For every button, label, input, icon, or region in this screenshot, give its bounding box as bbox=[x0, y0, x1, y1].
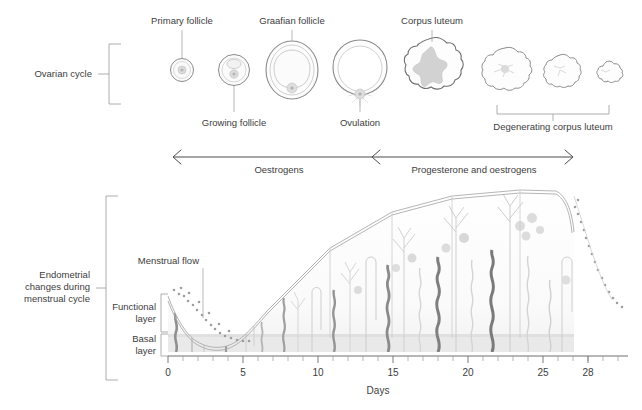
stage-graafian-follicle bbox=[266, 41, 318, 99]
ovarian-cycle-label: Ovarian cycle bbox=[34, 68, 92, 79]
x-axis: 0 5 10 15 20 25 28 Days bbox=[165, 356, 628, 396]
stage-degenerating-corpus-luteum-3 bbox=[597, 61, 623, 82]
x-tick-label-28: 28 bbox=[582, 367, 594, 378]
label-oestrogens: Oestrogens bbox=[254, 164, 303, 175]
degenerating-corpus-luteum-bracket bbox=[497, 105, 609, 121]
x-tick-label-20: 20 bbox=[462, 367, 474, 378]
endometrial-section-label: Endometrialchanges duringmenstrual cycle bbox=[24, 269, 90, 304]
end-cycle-shedding-specks bbox=[574, 199, 624, 309]
end-cycle-outline bbox=[574, 196, 612, 300]
x-axis-tick-labels: 0 5 10 15 20 25 28 bbox=[165, 367, 594, 378]
label-degenerating-corpus-luteum: Degenerating corpus luteum bbox=[493, 121, 612, 132]
stage-ovulation bbox=[333, 40, 387, 106]
basal-layer-bracket bbox=[161, 334, 168, 356]
label-primary-follicle: Primary follicle bbox=[151, 15, 213, 26]
label-functional-layer: Functionallayer bbox=[112, 301, 156, 324]
endometrium-section: Endometrialchanges duringmenstrual cycle… bbox=[24, 180, 623, 380]
x-tick-label-15: 15 bbox=[387, 367, 399, 378]
x-tick-label-0: 0 bbox=[165, 367, 171, 378]
hormone-axis-section: Oestrogens Progesterone and oestrogens bbox=[173, 150, 573, 175]
stage-degenerating-corpus-luteum-1 bbox=[482, 47, 532, 90]
label-basal-layer: Basallayer bbox=[132, 333, 156, 356]
endometrial-bracket bbox=[96, 196, 118, 380]
stage-growing-follicle bbox=[219, 55, 250, 86]
label-menstrual-flow: Menstrual flow bbox=[138, 255, 199, 266]
x-axis-minor-ticks bbox=[183, 356, 618, 361]
x-tick-label-5: 5 bbox=[240, 367, 246, 378]
label-corpus-luteum: Corpus luteum bbox=[401, 15, 463, 26]
stage-corpus-luteum bbox=[404, 37, 463, 89]
stage-primary-follicle bbox=[171, 59, 194, 82]
endometrial-stroma bbox=[160, 180, 580, 360]
x-tick-label-10: 10 bbox=[312, 367, 324, 378]
ovarian-cycle-bracket bbox=[98, 44, 121, 104]
basal-layer-band-top bbox=[168, 334, 574, 337]
x-tick-label-25: 25 bbox=[537, 367, 549, 378]
functional-layer-bracket bbox=[161, 294, 168, 332]
ovarian-cycle-section: Ovarian cycle Primary follicle Growing f… bbox=[34, 15, 622, 132]
label-progesterone-and-oestrogens: Progesterone and oestrogens bbox=[411, 164, 536, 175]
menstrual-cycle-diagram: Ovarian cycle Primary follicle Growing f… bbox=[0, 0, 642, 410]
label-growing-follicle: Growing follicle bbox=[202, 117, 266, 128]
label-graafian-follicle: Graafian follicle bbox=[259, 15, 324, 26]
stage-degenerating-corpus-luteum-2 bbox=[544, 54, 581, 87]
x-axis-title: Days bbox=[367, 385, 390, 396]
label-ovulation: Ovulation bbox=[340, 117, 380, 128]
